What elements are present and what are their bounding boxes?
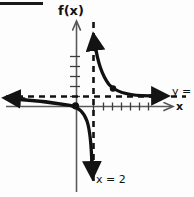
curve-left-branch — [20, 100, 92, 169]
curve-point-origin — [72, 102, 79, 109]
y-axis-ticks — [70, 57, 80, 97]
y-axis-label: f(x) — [58, 4, 84, 17]
curve-right-branch-arrow-up — [94, 41, 95, 50]
horizontal-asymptote-label: y = 1 — [172, 86, 194, 97]
vertical-asymptote-label: x = 2 — [96, 174, 126, 185]
graph-canvas — [0, 0, 194, 197]
graph-figure: f(x) x y = 1 x = 2 — [0, 0, 194, 197]
curve-left-branch-arrow-left — [11, 98, 24, 99]
x-axis-label: x — [176, 101, 183, 112]
curve-point-right — [110, 85, 116, 91]
curve-right-branch — [95, 44, 160, 96]
